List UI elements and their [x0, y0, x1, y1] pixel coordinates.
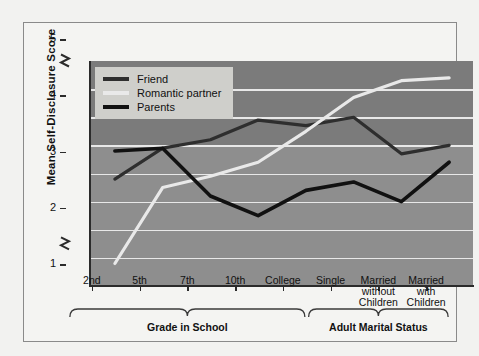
legend-item: Parents [103, 100, 221, 114]
group-brace [309, 309, 449, 317]
group-brace [70, 309, 305, 317]
legend-item: Friend [103, 72, 221, 86]
chart-figure: 12345 Mean Self-Disclosure Score 2nd5th7… [0, 0, 479, 356]
chart-legend: FriendRomantic partnerParents [95, 67, 233, 119]
chart-frame: 12345 Mean Self-Disclosure Score 2nd5th7… [23, 22, 457, 342]
legend-swatch [103, 77, 129, 81]
group-label: Grade in School [107, 321, 267, 333]
legend-label: Romantic partner [137, 87, 221, 99]
legend-item: Romantic partner [103, 86, 221, 100]
legend-swatch [103, 91, 129, 95]
group-label: Adult Marital Status [298, 321, 458, 333]
legend-swatch [103, 105, 129, 109]
legend-label: Parents [137, 101, 175, 113]
legend-label: Friend [137, 73, 168, 85]
group-braces [24, 23, 458, 343]
